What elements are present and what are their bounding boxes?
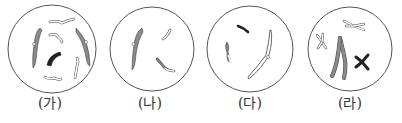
panel-ga: (가) <box>0 0 100 123</box>
panel-na: (나) <box>100 0 200 123</box>
panel-ra: (라) <box>300 0 400 123</box>
panel-label: (다) <box>200 92 300 112</box>
panel-da: (다) <box>200 0 300 123</box>
panel-label: (가) <box>0 92 100 112</box>
panel-label: (라) <box>300 92 400 112</box>
panel-label: (나) <box>100 92 200 112</box>
